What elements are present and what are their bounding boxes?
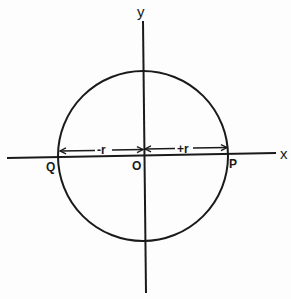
positive-radius-line-right [193, 148, 227, 149]
negative-radius-line-left [60, 151, 95, 152]
point-p-label: P [229, 157, 237, 171]
circle-on-axes-diagram: y x Q O P -r +r [0, 0, 291, 299]
x-axis-label: x [280, 145, 288, 162]
point-q-label: Q [46, 160, 55, 174]
y-axis-label: y [137, 3, 145, 20]
negative-radius-label: -r [97, 143, 106, 157]
diagram-canvas: y x Q O P -r +r [0, 0, 291, 299]
y-axis [143, 21, 146, 293]
positive-radius-line-left [145, 149, 175, 150]
origin-label: O [132, 159, 141, 173]
positive-radius-label: +r [177, 142, 189, 156]
negative-radius-line-right [112, 150, 143, 151]
